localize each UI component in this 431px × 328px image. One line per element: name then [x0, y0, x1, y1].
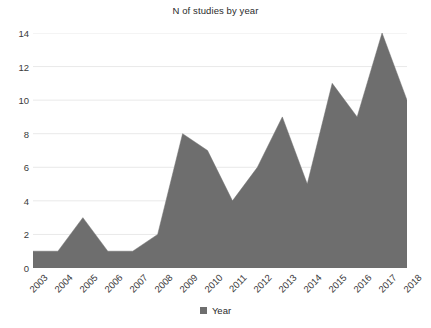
area-series-year: [33, 33, 407, 268]
chart-title: N of studies by year: [0, 5, 431, 16]
y-axis-tick-label: 12: [18, 61, 29, 72]
y-axis-tick-label: 14: [18, 28, 29, 39]
y-axis-tick-label: 2: [24, 229, 29, 240]
y-axis-tick-label: 0: [24, 263, 29, 274]
chart-legend: Year: [0, 305, 431, 316]
y-axis-tick-label: 8: [24, 128, 29, 139]
y-axis-tick-label: 4: [24, 195, 29, 206]
chart-container: N of studies by year 02468101214 2003200…: [0, 0, 431, 328]
legend-label-year: Year: [212, 305, 231, 316]
y-axis-tick-label: 6: [24, 162, 29, 173]
y-axis-tick-label: 10: [18, 95, 29, 106]
plot-area: [33, 33, 407, 268]
y-axis: 02468101214: [0, 33, 29, 268]
legend-swatch-year: [200, 307, 207, 314]
